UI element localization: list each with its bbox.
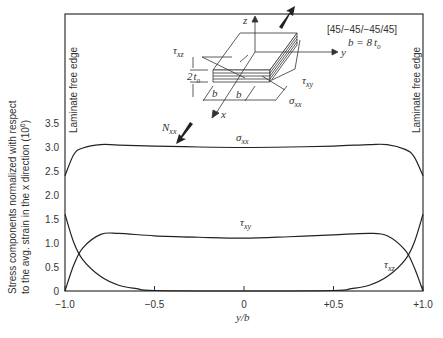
x-tick-label: +1.0: [413, 299, 433, 310]
stress-chart: 00.51.01.52.02.53.03.5 −1.0−0.50+0.5+1.0…: [0, 0, 443, 338]
x-axis-ticks: −1.0−0.50+0.5+1.0: [55, 286, 433, 310]
x-axis-label: y/b: [235, 311, 250, 323]
data-curves: [65, 144, 423, 291]
y-tick-label: 3.0: [45, 142, 59, 153]
layup-label: [45/−45/−45/45]: [327, 24, 397, 35]
x-axis-diagram-label: x: [220, 108, 226, 120]
x-tick-label: −1.0: [55, 299, 75, 310]
x-tick-label: 0: [241, 299, 247, 310]
left-free-edge-label: Laminate free edge: [68, 46, 79, 133]
tau-xz-diagram-label: τxz: [173, 44, 184, 59]
y-tick-label: 1.5: [45, 214, 59, 225]
y-axis-diagram-label: y: [340, 46, 346, 58]
y-tick-label: 0.5: [45, 262, 59, 273]
y-tick-label: 1.0: [45, 238, 59, 249]
curve-σxx: [65, 144, 423, 176]
two-t0-label: 2t0: [187, 70, 201, 85]
x-tick-label: +0.5: [324, 299, 344, 310]
z-axis-diagram-label: z: [242, 14, 248, 26]
x-tick-label: −0.5: [145, 299, 165, 310]
y-axis-label-line2: to the avg. strain in the x direction (1…: [19, 120, 31, 294]
sigma-xx-diagram-label: σxx: [289, 94, 302, 109]
y-tick-label: 2.0: [45, 190, 59, 201]
svg-text:to the avg. strain in the x di: to the avg. strain in the x direction (1…: [19, 120, 31, 294]
nxx-label: Nxx: [161, 121, 177, 136]
b-dim-right: b: [236, 88, 242, 100]
y-axis-label-line1: Stress components normalized with respec…: [7, 100, 18, 294]
curve-τxy: [65, 233, 423, 291]
tau-xy-label: τxy: [240, 216, 251, 231]
y-axis-ticks: 00.51.01.52.02.53.03.5: [45, 118, 59, 297]
y-tick-label: 3.5: [45, 118, 59, 129]
tau-xz-label: τxz: [384, 258, 395, 273]
b-equation-label: b = 8t0: [348, 36, 381, 51]
y-tick-label: 2.5: [45, 166, 59, 177]
y-tick-label: 0: [53, 286, 59, 297]
laminate-diagram: [176, 6, 338, 144]
tau-xy-diagram-label: τxy: [302, 74, 313, 89]
right-free-edge-label: Laminate free edge: [411, 46, 422, 133]
b-dim-left: b: [212, 87, 218, 99]
sigma-xx-label: σxx: [236, 131, 249, 146]
